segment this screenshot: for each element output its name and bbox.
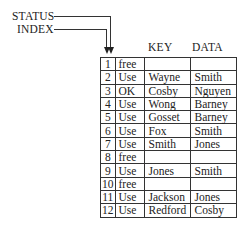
status-label: STATUS (12, 10, 54, 22)
index-pointer-vertical (106, 29, 107, 48)
table-row: 1free (101, 58, 237, 71)
status-cell: Use (115, 137, 144, 150)
table-row: 12UseRedfordCosby (101, 204, 237, 217)
index-cell: 4 (101, 97, 116, 110)
index-cell: 12 (101, 204, 116, 217)
table-row: 2UseWayneSmith (101, 71, 237, 84)
key-cell: Wong (144, 97, 190, 110)
table-row: 8free (101, 151, 237, 164)
index-arrow-icon (104, 47, 110, 54)
index-cell: 9 (101, 164, 116, 177)
status-cell: Use (115, 97, 144, 110)
index-cell: 8 (101, 151, 116, 164)
key-cell: Wayne (144, 71, 190, 84)
status-cell: Use (115, 71, 144, 84)
status-cell: OK (115, 84, 144, 97)
table-row: 4UseWongBarney (101, 97, 237, 110)
key-cell: Fox (144, 124, 190, 137)
key-column-header: KEY (148, 41, 173, 53)
data-cell: Smith (190, 124, 236, 137)
data-cell: Smith (190, 164, 236, 177)
index-cell: 7 (101, 137, 116, 150)
status-pointer-horizontal (54, 16, 110, 17)
index-label: INDEX (17, 23, 54, 35)
status-cell: free (115, 58, 144, 71)
index-cell: 5 (101, 111, 116, 124)
status-cell: Use (115, 111, 144, 124)
data-cell: Jones (190, 137, 236, 150)
key-cell: Redford (144, 204, 190, 217)
status-pointer-vertical (110, 16, 111, 48)
table-row: 6UseFoxSmith (101, 124, 237, 137)
key-cell (144, 58, 190, 71)
status-cell: free (115, 151, 144, 164)
data-column-header: DATA (192, 41, 223, 53)
table-row: 9UseJonesSmith (101, 164, 237, 177)
table-row: 5UseGossetBarney (101, 111, 237, 124)
index-cell: 3 (101, 84, 116, 97)
data-cell (190, 58, 236, 71)
table-row: 11UseJacksonJones (101, 190, 237, 203)
data-cell: Smith (190, 71, 236, 84)
data-cell: Barney (190, 111, 236, 124)
data-cell: Barney (190, 97, 236, 110)
data-cell (190, 177, 236, 190)
key-cell: Jones (144, 164, 190, 177)
index-cell: 10 (101, 177, 116, 190)
key-cell: Cosby (144, 84, 190, 97)
table-row: 3OKCosbyNguyen (101, 84, 237, 97)
data-cell (190, 151, 236, 164)
index-pointer-horizontal (54, 29, 107, 30)
data-cell: Jones (190, 190, 236, 203)
status-cell: Use (115, 190, 144, 203)
status-cell: Use (115, 124, 144, 137)
key-cell: Jackson (144, 190, 190, 203)
index-cell: 1 (101, 58, 116, 71)
status-cell: Use (115, 204, 144, 217)
key-cell: Smith (144, 137, 190, 150)
hash-table: 1free2UseWayneSmith3OKCosbyNguyen4UseWon… (100, 57, 237, 218)
index-cell: 2 (101, 71, 116, 84)
index-cell: 6 (101, 124, 116, 137)
key-cell (144, 177, 190, 190)
data-cell: Nguyen (190, 84, 236, 97)
key-cell (144, 151, 190, 164)
status-cell: Use (115, 164, 144, 177)
data-cell: Cosby (190, 204, 236, 217)
status-cell: free (115, 177, 144, 190)
table-row: 10free (101, 177, 237, 190)
key-cell: Gosset (144, 111, 190, 124)
table-row: 7UseSmithJones (101, 137, 237, 150)
index-cell: 11 (101, 190, 116, 203)
